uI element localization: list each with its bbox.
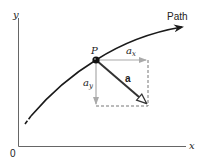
point-p-label: P [91,46,98,56]
y-axis-label: y [13,10,19,20]
ay-label-subscript: y [89,82,93,90]
x-axis-label: x [189,141,195,151]
ax-label: ax [126,46,136,56]
axes [19,18,187,147]
path-curve-line [31,27,182,116]
point-p-marker [92,56,99,63]
acceleration-components-diagram: y x 0 Path P ax ay a [0,0,204,163]
acceleration-vector-arrow [96,60,146,103]
ax-label-subscript: x [132,50,136,58]
path-curve-dashed-start [25,116,31,124]
acceleration-vector-label: a [125,74,131,84]
path-label: Path [167,12,188,22]
origin-label: 0 [10,149,16,159]
diagram-graphics [0,0,204,163]
ay-label: ay [83,78,93,88]
path-curve [25,27,182,124]
